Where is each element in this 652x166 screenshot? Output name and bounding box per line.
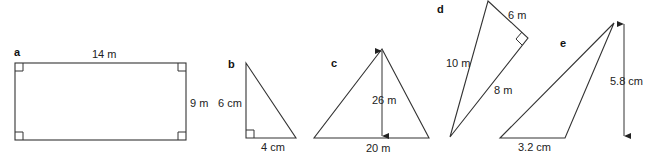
- shapes-diagram: a 14 m 9 m b 6 cm 4 cm c 26 m 20 m d 6 m…: [0, 0, 652, 166]
- long-leg-label: 8 m: [494, 84, 512, 96]
- base-label: 20 m: [366, 142, 390, 154]
- shape-a-rectangle: a 14 m 9 m: [14, 46, 208, 140]
- right-angle-marker: [246, 130, 254, 138]
- shape-d-letter: d: [437, 3, 444, 15]
- shape-a-letter: a: [14, 46, 21, 58]
- shape-e-letter: e: [560, 37, 566, 49]
- right-angle-marker: [178, 132, 186, 140]
- triangle-outline: [246, 63, 296, 138]
- triangle-outline: [450, 1, 528, 137]
- height-label: 5.8 cm: [610, 75, 643, 87]
- shape-d-right-triangle: d 6 m 10 m 8 m: [437, 1, 528, 137]
- base-label: 4 cm: [261, 141, 285, 153]
- right-angle-marker: [15, 132, 23, 140]
- rectangle-outline: [15, 63, 186, 140]
- hypotenuse-label: 10 m: [446, 57, 470, 69]
- shape-e-triangle: e 5.8 cm 3.2 cm: [500, 23, 643, 153]
- right-angle-marker: [15, 63, 23, 71]
- shape-c-triangle: c 26 m 20 m: [314, 49, 429, 154]
- short-leg-label: 6 m: [508, 9, 526, 21]
- right-angle-marker: [178, 63, 186, 71]
- shape-c-letter: c: [331, 57, 337, 69]
- height-label: 26 m: [372, 94, 396, 106]
- right-angle-marker: [516, 32, 522, 45]
- height-label: 9 m: [190, 97, 208, 109]
- base-label: 3.2 cm: [518, 141, 551, 153]
- shape-b-right-triangle: b 6 cm 4 cm: [218, 58, 296, 153]
- height-label: 6 cm: [218, 97, 242, 109]
- shape-b-letter: b: [228, 58, 235, 70]
- width-label: 14 m: [92, 48, 116, 60]
